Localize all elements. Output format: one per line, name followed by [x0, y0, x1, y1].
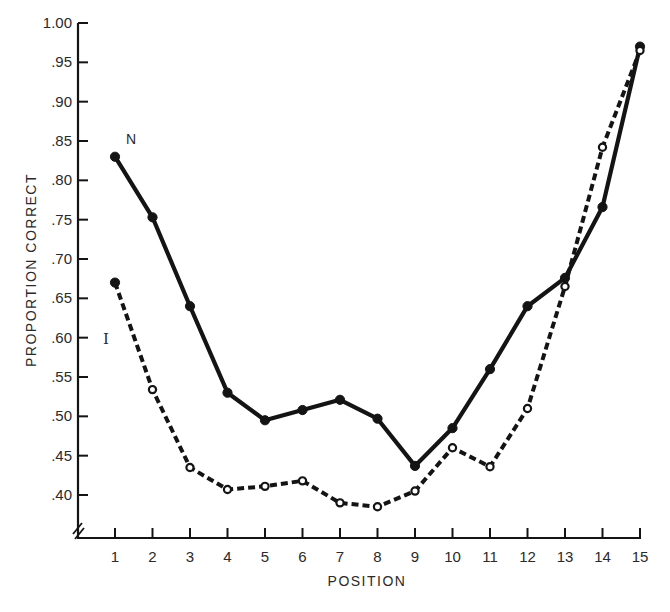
y-tick-label: .80	[51, 171, 72, 188]
data-point	[298, 405, 307, 414]
series-label-i: I	[103, 330, 109, 348]
data-point	[186, 464, 193, 471]
data-point	[561, 283, 568, 290]
y-tick-label: .70	[51, 250, 72, 267]
y-tick-label: .65	[51, 289, 72, 306]
x-tick-label: 12	[519, 548, 536, 565]
y-axis: .40.45.50.55.60.65.70.75.80.85.90.951.00	[43, 14, 88, 539]
y-tick-label: .55	[51, 368, 72, 385]
data-point	[260, 416, 269, 425]
series-layer	[110, 42, 644, 510]
data-point	[110, 278, 119, 287]
y-tick-label: 1.00	[43, 14, 72, 31]
data-point	[485, 365, 494, 374]
series-line-n	[115, 47, 640, 466]
y-tick-label: .90	[51, 93, 72, 110]
data-point	[524, 405, 531, 412]
x-tick-label: 6	[298, 548, 306, 565]
x-tick-label: 5	[261, 548, 269, 565]
y-tick-label: .60	[51, 329, 72, 346]
data-point	[224, 486, 231, 493]
y-tick-label: .45	[51, 447, 72, 464]
data-point	[411, 487, 418, 494]
series-label-n: N	[126, 131, 136, 147]
x-tick-label: 4	[223, 548, 231, 565]
x-tick-label: 3	[186, 548, 194, 565]
y-tick-label: .40	[51, 486, 72, 503]
data-point	[185, 302, 194, 311]
x-tick-label: 7	[336, 548, 344, 565]
x-tick-label: 14	[594, 548, 611, 565]
x-tick-label: 10	[444, 548, 461, 565]
y-tick-label: .85	[51, 132, 72, 149]
data-point	[523, 302, 532, 311]
x-tick-label: 15	[632, 548, 649, 565]
x-tick-label: 8	[373, 548, 381, 565]
data-point	[599, 144, 606, 151]
line-chart: .40.45.50.55.60.65.70.75.80.85.90.951.00…	[0, 0, 670, 612]
data-point	[335, 395, 344, 404]
x-tick-label: 2	[148, 548, 156, 565]
x-tick-label: 13	[557, 548, 574, 565]
series-n	[110, 42, 644, 470]
data-point	[110, 152, 119, 161]
data-point	[148, 213, 157, 222]
data-point	[448, 424, 457, 433]
data-point	[373, 414, 382, 423]
y-tick-label: .50	[51, 407, 72, 424]
data-point	[261, 483, 268, 490]
data-point	[636, 47, 643, 54]
y-tick-label: .95	[51, 53, 72, 70]
x-tick-label: 1	[111, 548, 119, 565]
data-point	[374, 503, 381, 510]
data-point	[410, 461, 419, 470]
data-point	[598, 202, 607, 211]
x-tick-label: 11	[482, 548, 498, 565]
data-point	[223, 388, 232, 397]
x-axis: 123456789101112131415	[77, 528, 648, 565]
data-point	[299, 477, 306, 484]
y-tick-label: .75	[51, 211, 72, 228]
data-point	[336, 499, 343, 506]
x-axis-title: POSITION	[328, 573, 407, 589]
data-point	[449, 444, 456, 451]
data-point	[486, 463, 493, 470]
y-axis-title: PROPORTION CORRECT	[23, 173, 39, 367]
data-point	[149, 386, 156, 393]
x-tick-label: 9	[411, 548, 419, 565]
